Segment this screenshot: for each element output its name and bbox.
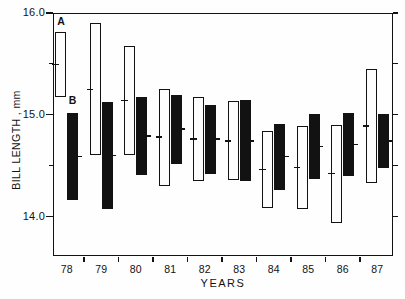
y-tick-right-14.5 [393,165,398,166]
year-label-80: 80 [123,263,149,275]
year-label-85: 85 [295,263,321,275]
year-label-84: 84 [261,263,287,275]
y-tick-major-14 [46,216,53,218]
mean-tick-a-82 [190,138,197,139]
y-tick-major-15 [46,114,53,116]
y-tick-right-15.5 [393,63,398,64]
mean-tick-b-78 [77,156,82,157]
mean-tick-a-79 [87,89,94,90]
year-label-79: 79 [88,263,114,275]
y-tick-right-15 [393,114,398,115]
mean-tick-a-87 [363,125,370,126]
mean-tick-b-83 [249,140,254,141]
x-tick-boundary-6 [290,257,292,262]
chart-figure: 16.0 15.0 14.0 BILL LENGTH , mm YEARS A … [0,0,405,299]
mean-tick-a-78 [52,64,59,65]
x-tick-boundary-4 [221,257,223,262]
mean-tick-b-85 [318,146,323,147]
y-tick-major-16 [46,12,53,14]
year-label-78: 78 [54,263,80,275]
year-label-83: 83 [226,263,252,275]
mean-tick-b-86 [353,144,358,145]
y-tick-minor-14.5 [49,165,54,166]
mean-tick-b-81 [180,128,185,129]
x-tick-boundary-7 [325,257,327,262]
mean-tick-a-80 [121,100,128,101]
mean-tick-a-81 [156,136,163,137]
x-tick-boundary-5 [256,257,258,262]
x-tick-boundary-2 [152,257,154,262]
x-tick-boundary-0 [83,257,85,262]
year-label-81: 81 [157,263,183,275]
mean-tick-b-82 [215,138,220,139]
y-tick-right-16 [393,12,398,13]
y-tick-right-14 [393,216,398,217]
year-label-82: 82 [192,263,218,275]
mean-tick-b-84 [284,156,289,157]
mean-tick-b-80 [146,135,151,136]
mean-tick-b-79 [111,155,116,156]
year-label-86: 86 [330,263,356,275]
mean-tick-b-87 [387,140,392,141]
x-tick-boundary-1 [118,257,120,262]
mean-tick-a-85 [294,167,301,168]
mean-tick-a-84 [259,169,266,170]
x-tick-boundary-8 [359,257,361,262]
mean-tick-a-86 [328,173,335,174]
plot-area: 78798081828384858687 [0,0,405,299]
x-tick-boundary-3 [187,257,189,262]
year-label-87: 87 [364,263,390,275]
mean-tick-a-83 [225,140,232,141]
